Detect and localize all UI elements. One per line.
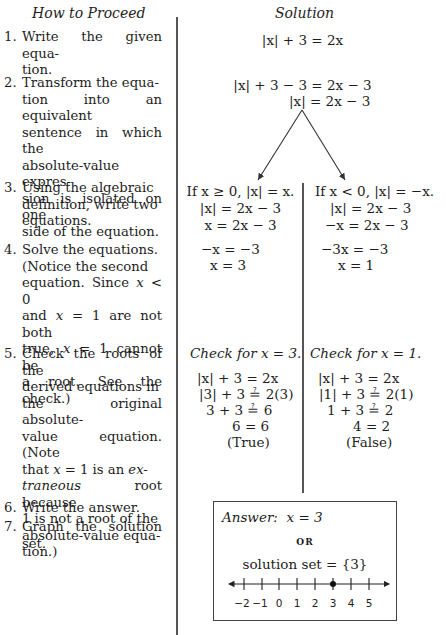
- tick-label: 4: [348, 597, 355, 609]
- tick-label: 3: [330, 597, 337, 609]
- tick-label: 0: [276, 597, 283, 609]
- tick-label: 5: [366, 597, 373, 609]
- number-line: [0, 0, 446, 635]
- tick-label: −1: [252, 597, 267, 609]
- tick-label: 2: [312, 597, 319, 609]
- solution-point: [330, 581, 336, 587]
- tick-label: −2: [234, 597, 249, 609]
- tick-label: 1: [294, 597, 301, 609]
